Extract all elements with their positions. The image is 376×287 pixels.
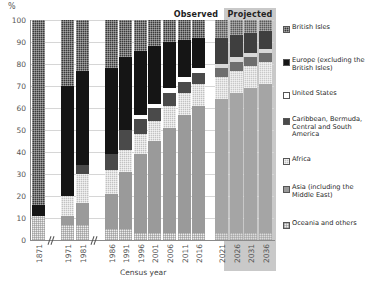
bar-segment [259, 233, 272, 240]
bar-segment [215, 68, 228, 77]
bar-group [30, 20, 274, 240]
bar-segment [192, 73, 205, 84]
bar-segment [215, 77, 228, 99]
bar-segment [119, 172, 132, 229]
bar-1871[interactable] [32, 20, 45, 240]
legend-item-3[interactable]: Caribbean, Bermuda, Central and South Am… [283, 116, 376, 139]
y-tick-80: 80 [16, 60, 26, 69]
bar-2011[interactable] [178, 20, 191, 240]
bar-segment [259, 84, 272, 234]
bar-segment [76, 165, 89, 174]
axis-break-mark [48, 236, 55, 245]
y-axis-unit-label: % [8, 2, 16, 11]
bar-1981[interactable] [76, 20, 89, 240]
bar-segment [148, 141, 161, 233]
x-tick-2021: 2021 [218, 244, 227, 263]
bar-segment [244, 20, 257, 33]
bar-segment [119, 150, 132, 172]
bar-segment [61, 216, 74, 225]
legend-item-6[interactable]: Oceania and others [283, 220, 357, 229]
legend-swatch-icon [283, 26, 290, 33]
bar-2006[interactable] [163, 20, 176, 240]
bar-segment [134, 51, 147, 115]
legend-label: Oceania and others [292, 220, 357, 228]
bar-segment [259, 31, 272, 49]
bar-segment [178, 233, 191, 240]
bar-segment [259, 53, 272, 62]
bar-segment [105, 20, 118, 68]
x-tick-1991: 1991 [122, 244, 131, 263]
bar-2016[interactable] [192, 20, 205, 240]
legend-item-0[interactable]: British Isles [283, 24, 330, 33]
x-tick-1996: 1996 [137, 244, 146, 263]
x-tick-2016: 2016 [195, 244, 204, 263]
bar-2031[interactable] [244, 20, 257, 240]
bar-segment [230, 20, 243, 35]
legend-swatch-icon [283, 118, 290, 125]
legend-swatch-icon [283, 158, 290, 165]
legend-label: Europe (excluding the British Isles) [292, 57, 376, 72]
bar-segment [134, 233, 147, 240]
bar-segment [119, 130, 132, 150]
legend-swatch-icon [283, 92, 290, 99]
bar-segment [259, 62, 272, 84]
legend-label: Caribbean, Bermuda, Central and South Am… [292, 116, 376, 139]
bar-segment [76, 174, 89, 203]
bar-1996[interactable] [134, 20, 147, 240]
bar-1971[interactable] [61, 20, 74, 240]
y-tick-60: 60 [16, 104, 26, 113]
legend-item-5[interactable]: Asia (including the Middle East) [283, 184, 376, 199]
bar-segment [215, 99, 228, 233]
legend-label: Africa [292, 156, 311, 164]
x-tick-1981: 1981 [79, 244, 88, 263]
bar-2001[interactable] [148, 20, 161, 240]
bar-segment [76, 225, 89, 240]
y-tick-70: 70 [16, 82, 26, 91]
bar-segment [148, 104, 161, 108]
bar-segment [192, 106, 205, 234]
bar-segment [119, 229, 132, 240]
bar-segment [119, 20, 132, 57]
bar-segment [244, 88, 257, 233]
bar-segment [244, 57, 257, 66]
bar-2026[interactable] [230, 20, 243, 240]
x-tick-1971: 1971 [64, 244, 73, 263]
bar-segment [178, 115, 191, 234]
bar-2036[interactable] [259, 20, 272, 240]
bar-segment [178, 82, 191, 93]
bar-segment [230, 233, 243, 240]
bar-segment [230, 93, 243, 234]
axis-break-mark [91, 236, 98, 245]
y-tick-30: 30 [16, 170, 26, 179]
legend-item-2[interactable]: United States [283, 90, 337, 99]
bar-segment [259, 20, 272, 31]
bar-segment [244, 53, 257, 57]
bar-segment [163, 20, 176, 42]
bar-segment [61, 86, 74, 196]
legend-swatch-icon [283, 186, 290, 193]
bar-1991[interactable] [119, 20, 132, 240]
bar-segment [32, 205, 45, 216]
bar-1986[interactable] [105, 20, 118, 240]
x-tick-1986: 1986 [108, 244, 117, 263]
bar-segment [134, 115, 147, 119]
bar-segment [148, 121, 161, 141]
y-axis: 0102030405060708090100 [0, 20, 30, 240]
bar-segment [230, 57, 243, 61]
legend-label: United States [292, 90, 337, 98]
legend-item-4[interactable]: Africa [283, 156, 311, 165]
bar-segment [32, 216, 45, 240]
bar-segment [163, 233, 176, 240]
bar-segment [163, 128, 176, 234]
bar-segment [178, 93, 191, 115]
bar-segment [148, 20, 161, 46]
legend-item-1[interactable]: Europe (excluding the British Isles) [283, 57, 376, 72]
bar-segment [192, 68, 205, 72]
y-tick-100: 100 [12, 16, 26, 25]
y-tick-10: 10 [16, 214, 26, 223]
bar-segment [76, 71, 89, 166]
bar-2021[interactable] [215, 20, 228, 240]
bar-segment [244, 33, 257, 53]
x-axis-title: Census year [120, 268, 166, 277]
bar-segment [192, 84, 205, 106]
